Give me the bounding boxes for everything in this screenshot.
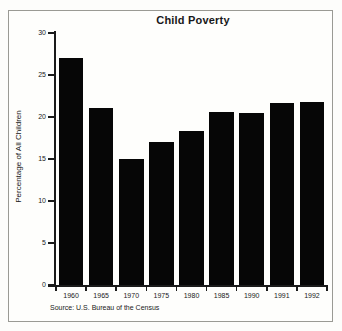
bar [149, 142, 174, 285]
chart-title-text: Child Poverty [156, 14, 230, 26]
chart-figure: Child Poverty Percentage of All Children… [0, 0, 342, 331]
x-axis-tick-label: 1960 [57, 292, 85, 299]
y-axis-tick [48, 116, 55, 118]
x-axis-tick [236, 285, 238, 291]
bar [300, 102, 325, 285]
x-axis-tick-label: 1985 [208, 292, 236, 299]
bar [239, 113, 264, 285]
bar [59, 58, 84, 285]
y-axis-tick [48, 284, 55, 286]
x-axis-tick-label: 1991 [268, 292, 296, 299]
y-axis-tick-label: 20 [26, 113, 46, 120]
chart-title: Child Poverty [0, 14, 342, 26]
bar [270, 103, 295, 285]
y-axis-tick-label: 30 [26, 29, 46, 36]
y-axis-tick-label: 5 [26, 239, 46, 246]
bar [119, 159, 144, 285]
bar [179, 131, 204, 285]
x-axis-tick [206, 285, 208, 291]
y-axis-tick [48, 200, 55, 202]
y-axis-tick [48, 242, 55, 244]
x-axis-tick-label: 1990 [238, 292, 266, 299]
y-axis-tick [48, 74, 55, 76]
plot-area [55, 33, 327, 285]
x-axis-tick-label: 1980 [178, 292, 206, 299]
x-axis-tick [176, 285, 178, 291]
y-axis-tick-label: 0 [26, 281, 46, 288]
x-axis-tick [266, 285, 268, 291]
y-axis-tick [48, 158, 55, 160]
x-axis-tick [85, 285, 87, 291]
y-axis-tick [48, 32, 55, 34]
x-axis-tick [296, 285, 298, 291]
y-axis-tick-label: 15 [26, 155, 46, 162]
x-axis-tick-label: 1975 [147, 292, 175, 299]
x-axis-line [48, 285, 328, 287]
bar [209, 112, 234, 285]
x-axis-tick [115, 285, 117, 291]
x-axis-tick-label: 1965 [87, 292, 115, 299]
bar [89, 108, 114, 285]
y-axis-title: Percentage of All Children [14, 77, 23, 237]
x-axis-tick [146, 285, 148, 291]
y-axis-tick-label: 10 [26, 197, 46, 204]
x-axis-tick [55, 285, 57, 291]
y-axis-tick-label: 25 [26, 71, 46, 78]
x-axis-tick-label: 1992 [298, 292, 326, 299]
x-axis-tick [326, 285, 328, 291]
x-axis-tick-label: 1970 [117, 292, 145, 299]
source-note: Source: U.S. Bureau of the Census [50, 304, 159, 311]
